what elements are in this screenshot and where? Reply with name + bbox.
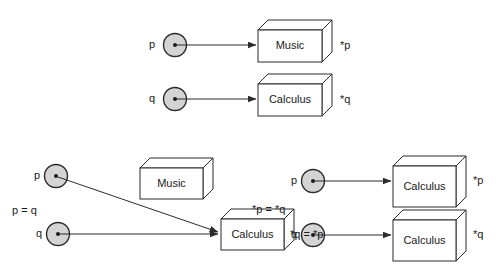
relation-label-br-star-p-eq-star-q: *p = *q: [252, 204, 285, 215]
object-label-bl-calculus: Calculus: [221, 229, 284, 240]
pointer-label-top-p: p: [149, 39, 155, 50]
diagram-canvas: p Music *p q Calculus *q p p = q q Music…: [0, 0, 500, 265]
object-label-top-music: Music: [258, 40, 322, 51]
pointer-label-bl-q: q: [36, 228, 42, 239]
deref-label-top-star-q: *q: [340, 94, 350, 105]
pointer-label-top-q: q: [149, 93, 155, 104]
deref-label-br-star-q: *q: [473, 229, 483, 240]
pointer-label-br-p: p: [291, 175, 297, 186]
object-label-top-calculus: Calculus: [258, 94, 322, 105]
object-label-br-calculus-bottom: Calculus: [393, 235, 456, 246]
relation-label-bl-p-eq-q: p = q: [12, 205, 37, 216]
object-label-bl-music: Music: [140, 178, 203, 189]
pointer-label-br-q: q: [291, 229, 297, 240]
deref-label-top-star-p: *p: [340, 40, 350, 51]
deref-label-br-star-p: *p: [473, 175, 483, 186]
pointer-label-bl-p: p: [34, 170, 40, 181]
object-label-br-calculus-top: Calculus: [393, 181, 456, 192]
diagram-vector-layer: [0, 0, 500, 265]
pointer-node-bl-p: [45, 165, 68, 188]
